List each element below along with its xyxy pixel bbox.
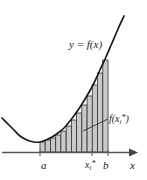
riemann-rectangle [103,60,108,152]
right-endpoint-label: b [103,159,109,171]
riemann-rectangle [71,120,76,152]
riemann-rectangle [45,140,50,152]
left-endpoint-label: a [41,159,47,171]
riemann-rectangle [61,131,66,152]
sample-point-label: xi* [85,159,95,172]
curve-equation-label: y = f(x) [69,38,102,50]
rect-height-label-close: ) [126,113,129,124]
riemann-rectangle [51,138,56,152]
riemann-rectangle [40,142,45,152]
figure-canvas [0,0,147,180]
x-axis-arrow-icon [129,149,138,157]
sample-point-label-sup: * [91,159,95,168]
riemann-rectangle [92,85,97,152]
riemann-sum-figure: y = f(x) f(xi*) a xi* b x [0,0,147,180]
riemann-rectangle [82,105,87,152]
rect-height-label: f(xi*) [109,113,129,126]
riemann-rectangle [66,126,71,152]
riemann-rectangle [56,135,61,152]
rect-height-label-main: f(x [109,113,120,124]
riemann-rectangle [87,96,92,152]
riemann-rectangle [77,113,82,152]
x-axis-label: x [130,159,135,171]
riemann-rectangle [98,73,103,152]
